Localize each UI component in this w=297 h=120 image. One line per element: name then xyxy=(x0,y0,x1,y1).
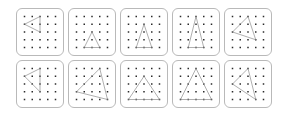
grid-dot xyxy=(107,47,109,49)
grid-dot xyxy=(143,83,145,85)
grid-dot xyxy=(263,24,265,26)
grid-dot xyxy=(188,39,190,41)
grid-dot xyxy=(211,16,213,18)
grid-dot xyxy=(159,91,161,93)
geoboard-panel xyxy=(68,8,116,56)
grid-dot xyxy=(180,83,182,85)
grid-dot xyxy=(99,31,101,33)
grid-dot xyxy=(188,24,190,26)
grid-dot xyxy=(188,76,190,78)
grid-dot xyxy=(203,68,205,70)
dot-lattice xyxy=(180,16,213,49)
grid-dot xyxy=(240,99,242,101)
grid-dot xyxy=(128,91,130,93)
grid-dot xyxy=(107,31,109,33)
dot-lattice xyxy=(128,68,161,101)
grid-dot xyxy=(107,76,109,78)
grid-dot xyxy=(180,39,182,41)
grid-dot xyxy=(47,24,49,26)
grid-dot xyxy=(99,91,101,93)
grid-dot xyxy=(195,24,197,26)
grid-dot xyxy=(180,76,182,78)
grid-dot xyxy=(247,76,249,78)
grid-dot xyxy=(263,76,265,78)
grid-dot xyxy=(263,99,265,101)
geoboard-panel xyxy=(224,60,272,108)
grid-dot xyxy=(232,68,234,70)
grid-dot xyxy=(84,31,86,33)
grid-dot xyxy=(128,39,130,41)
grid-dot xyxy=(151,31,153,33)
grid-dot xyxy=(32,76,34,78)
grid-dot xyxy=(99,39,101,41)
grid-dot xyxy=(211,68,213,70)
grid-dot xyxy=(55,39,57,41)
triangle-shape xyxy=(25,69,41,92)
grid-dot xyxy=(32,91,34,93)
grid-dot xyxy=(180,31,182,33)
grid-dot xyxy=(211,39,213,41)
grid-dot xyxy=(91,91,93,93)
grid-dot xyxy=(55,99,57,101)
grid-dot xyxy=(159,76,161,78)
grid-dot xyxy=(211,31,213,33)
grid-dot xyxy=(136,91,138,93)
grid-dot xyxy=(195,83,197,85)
geoboard-panel xyxy=(16,60,64,108)
grid-dot xyxy=(240,91,242,93)
grid-dot xyxy=(203,91,205,93)
grid-dot xyxy=(76,47,78,49)
grid-dot xyxy=(55,47,57,49)
grid-dot xyxy=(55,91,57,93)
dot-lattice xyxy=(232,68,265,101)
grid-dot xyxy=(232,47,234,49)
grid-dot xyxy=(107,24,109,26)
grid-dot xyxy=(76,31,78,33)
grid-dot xyxy=(76,76,78,78)
grid-dot xyxy=(263,39,265,41)
grid-dot xyxy=(128,24,130,26)
grid-dot xyxy=(263,68,265,70)
grid-dot xyxy=(247,24,249,26)
grid-dot xyxy=(203,24,205,26)
grid-dot xyxy=(247,83,249,85)
triangle-shape xyxy=(129,76,160,99)
grid-dot xyxy=(39,99,41,101)
grid-dot xyxy=(24,91,26,93)
grid-dot xyxy=(99,24,101,26)
grid-dot xyxy=(76,39,78,41)
grid-dot xyxy=(211,24,213,26)
grid-dot xyxy=(232,16,234,18)
grid-dot xyxy=(159,83,161,85)
grid-dot xyxy=(136,68,138,70)
grid-dot xyxy=(143,16,145,18)
grid-dot xyxy=(180,68,182,70)
grid-dot xyxy=(84,91,86,93)
grid-dot xyxy=(263,91,265,93)
geoboard-panel xyxy=(172,60,220,108)
grid-dot xyxy=(55,76,57,78)
geoboard-panel xyxy=(16,8,64,56)
grid-dot xyxy=(136,24,138,26)
grid-dot xyxy=(151,83,153,85)
grid-dot xyxy=(84,76,86,78)
grid-dot xyxy=(136,16,138,18)
grid-dot xyxy=(47,99,49,101)
grid-dot xyxy=(195,76,197,78)
geoboard-panel xyxy=(68,60,116,108)
grid-dot xyxy=(55,68,57,70)
grid-dot xyxy=(143,31,145,33)
grid-dot xyxy=(47,31,49,33)
grid-dot xyxy=(255,16,257,18)
grid-dot xyxy=(151,68,153,70)
grid-dot xyxy=(143,91,145,93)
geoboard-panel xyxy=(172,8,220,56)
grid-dot xyxy=(159,24,161,26)
grid-dot xyxy=(247,91,249,93)
grid-dot xyxy=(107,91,109,93)
grid-dot xyxy=(143,39,145,41)
grid-dot xyxy=(47,91,49,93)
grid-dot xyxy=(76,99,78,101)
grid-dot xyxy=(180,47,182,49)
grid-dot xyxy=(32,31,34,33)
